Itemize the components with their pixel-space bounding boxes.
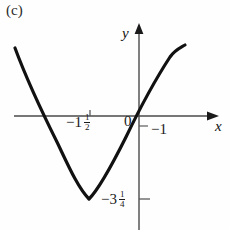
fraction: 1 4 bbox=[119, 190, 126, 209]
mixed-whole-part: −3 bbox=[101, 191, 117, 208]
x-intercept-vertex-label: −1 1 2 bbox=[66, 113, 90, 132]
fraction-numerator: 1 bbox=[119, 190, 126, 199]
y-axis-arrow-icon bbox=[135, 23, 144, 34]
mixed-number: −3 1 4 bbox=[101, 190, 125, 209]
mixed-whole-part: −1 bbox=[66, 114, 82, 131]
x-axis-label: x bbox=[215, 118, 222, 135]
y-axis-label: y bbox=[122, 25, 129, 42]
y-intercept-label: −1 bbox=[151, 121, 167, 138]
parabola-figure: (c) y x 0 −1 1 2 −1 −3 bbox=[0, 0, 230, 230]
origin-label: 0 bbox=[124, 113, 132, 130]
fraction-numerator: 1 bbox=[84, 113, 91, 122]
mixed-number: −1 1 2 bbox=[66, 113, 90, 132]
fraction: 1 2 bbox=[84, 113, 91, 132]
minimum-value-label: −3 1 4 bbox=[101, 190, 125, 209]
fraction-denominator: 4 bbox=[119, 199, 126, 209]
fraction-denominator: 2 bbox=[84, 122, 91, 132]
